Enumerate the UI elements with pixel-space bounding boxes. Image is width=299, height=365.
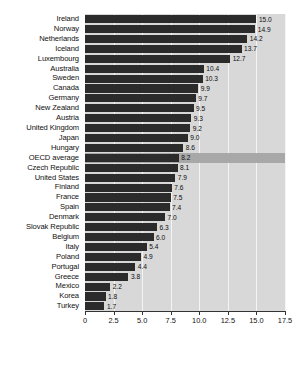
bar-value-label: 4.4 [138, 262, 147, 271]
bar-row: 5.4 [85, 242, 285, 252]
bar [85, 94, 196, 102]
bar-row: 9.3 [85, 113, 285, 123]
bar-row: 14.2 [85, 34, 285, 44]
bar [85, 164, 178, 172]
category-label: Sweden [0, 73, 82, 83]
bar [85, 292, 106, 300]
bar-value-label: 9.5 [196, 104, 205, 113]
bar [85, 223, 157, 231]
bar-row: 4.9 [85, 252, 285, 262]
bar-value-label: 10.4 [206, 64, 219, 73]
x-axis-tick-label: 7.5 [166, 316, 176, 325]
category-axis-labels: IrelandNorwayNetherlandsIcelandLuxembour… [0, 14, 82, 311]
bar-value-label: 14.9 [258, 25, 271, 34]
bar-value-label: 10.3 [205, 74, 218, 83]
bar [85, 25, 255, 33]
bar [85, 193, 171, 201]
x-axis-tick-label: 10.0 [192, 316, 206, 325]
bar-row: 7.0 [85, 212, 285, 222]
category-label: Slovak Republic [0, 222, 82, 232]
bar-row: 9.7 [85, 93, 285, 103]
bar-value-label: 7.6 [174, 183, 183, 192]
bar-value-label: 9.0 [190, 133, 199, 142]
bar [85, 253, 141, 261]
category-label: Ireland [0, 14, 82, 24]
bar-value-label: 6.3 [160, 223, 169, 232]
x-axis-tick [85, 311, 86, 314]
bar-value-label: 5.4 [149, 242, 158, 251]
bar [85, 134, 188, 142]
bar [85, 213, 165, 221]
category-label: Korea [0, 291, 82, 301]
x-axis-tick [285, 311, 286, 314]
category-label: Turkey [0, 301, 82, 311]
category-label: Japan [0, 133, 82, 143]
bar [85, 75, 203, 83]
bar-value-label: 8.1 [180, 163, 189, 172]
bar [85, 104, 194, 112]
x-axis-tick [114, 311, 115, 314]
bar [85, 302, 104, 310]
bar [85, 184, 172, 192]
bar-value-label: 2.2 [113, 282, 122, 291]
bar [85, 114, 191, 122]
gridline [285, 14, 286, 311]
bar-value-label: 14.2 [250, 34, 263, 43]
bar-row: 14.9 [85, 24, 285, 34]
plot-area: 15.014.914.213.712.710.410.39.99.79.59.3… [85, 14, 285, 311]
x-axis-tick-label: 17.5 [278, 316, 292, 325]
category-label: Czech Republic [0, 163, 82, 173]
bar-value-label: 4.9 [144, 252, 153, 261]
bar-row: 9.2 [85, 123, 285, 133]
category-label: Luxembourg [0, 54, 82, 64]
category-label: Denmark [0, 212, 82, 222]
bar-row: 7.6 [85, 182, 285, 192]
x-axis-tick-label: 12.5 [221, 316, 235, 325]
category-label: New Zealand [0, 103, 82, 113]
bar [85, 144, 183, 152]
category-label: Finland [0, 182, 82, 192]
category-label: Canada [0, 83, 82, 93]
bars-layer: 15.014.914.213.712.710.410.39.99.79.59.3… [85, 14, 285, 311]
bar-row: 13.7 [85, 44, 285, 54]
bar-row: 2.2 [85, 281, 285, 291]
category-label: Hungary [0, 143, 82, 153]
bar-value-label: 15.0 [259, 15, 272, 24]
category-label: Australia [0, 64, 82, 74]
bar [85, 15, 256, 23]
bar [85, 203, 170, 211]
bar-row: 7.4 [85, 202, 285, 212]
bar [85, 84, 198, 92]
x-axis-tick-label: 15.0 [249, 316, 263, 325]
bar-row: 12.7 [85, 54, 285, 64]
bar-row: 8.1 [85, 163, 285, 173]
bar [85, 65, 204, 73]
bar-value-label: 9.2 [193, 124, 202, 133]
bar-value-label: 6.0 [156, 233, 165, 242]
bar [85, 154, 179, 162]
bar-row: 6.0 [85, 232, 285, 242]
category-label: Netherlands [0, 34, 82, 44]
category-label: Mexico [0, 281, 82, 291]
category-label: Belgium [0, 232, 82, 242]
bar-row: 7.5 [85, 192, 285, 202]
bar-value-label: 8.6 [186, 143, 195, 152]
bar-value-label: 1.8 [108, 292, 117, 301]
bar-value-label: 3.8 [131, 272, 140, 281]
bar-row: 9.9 [85, 83, 285, 93]
bar-row: 9.5 [85, 103, 285, 113]
bar-row: 8.6 [85, 143, 285, 153]
bar-value-label: 7.5 [173, 193, 182, 202]
bar [85, 273, 128, 281]
category-label: Iceland [0, 44, 82, 54]
bar [85, 35, 247, 43]
x-axis-tick-label: 2.5 [108, 316, 118, 325]
bar-value-label: 7.4 [172, 203, 181, 212]
bar [85, 283, 110, 291]
x-axis-tick [228, 311, 229, 314]
bar [85, 124, 190, 132]
bar-row: 10.3 [85, 73, 285, 83]
bar-chart: IrelandNorwayNetherlandsIcelandLuxembour… [0, 0, 299, 365]
bar-row: 1.8 [85, 291, 285, 301]
category-label: Poland [0, 252, 82, 262]
